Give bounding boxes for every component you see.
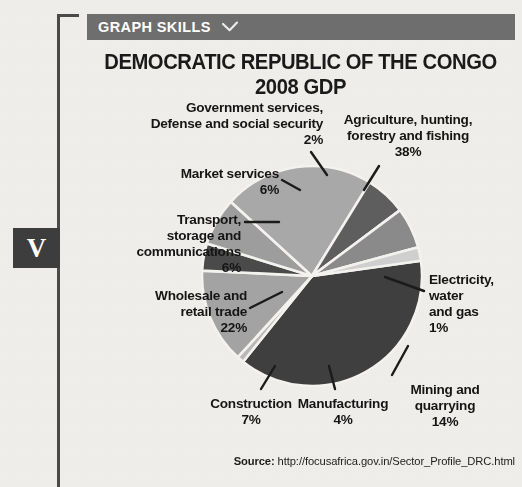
pie-label-wholesale-retail-trade: Wholesale and retail trade 22% [79,288,247,336]
pie-label-government-services: Government services, Defense and social … [109,100,323,148]
pie-label-agriculture: Agriculture, hunting, forestry and fishi… [313,112,503,160]
graph-skills-label: GRAPH SKILLS [98,19,211,35]
chevron-down-icon[interactable] [221,21,239,33]
page-corner-rule [57,14,79,17]
pie-label-market-services: Market services 6% [109,166,279,198]
graph-skills-header-bar[interactable]: GRAPH SKILLS [87,14,515,40]
pie-chart [201,165,423,387]
section-marker-v: V [13,228,60,268]
pie-label-electricity-water-gas: Electricity, water and gas 1% [429,272,522,336]
pie-slice-group [202,166,422,386]
pie-label-mining-quarrying: Mining and quarrying 14% [385,382,505,430]
source-line: Source: http://focusafrica.gov.in/Sector… [79,455,515,467]
page-title: DEMOCRATIC REPUBLIC OF THE CONGO 2008 GD… [92,50,508,100]
source-label: Source: [234,455,275,467]
chart-content-column: GRAPH SKILLS DEMOCRATIC REPUBLIC OF THE … [79,0,522,487]
pie-chart-svg [201,165,423,387]
source-url: http://focusafrica.gov.in/Sector_Profile… [278,455,515,467]
pie-label-transport: Transport, storage and communications 6% [89,212,241,276]
